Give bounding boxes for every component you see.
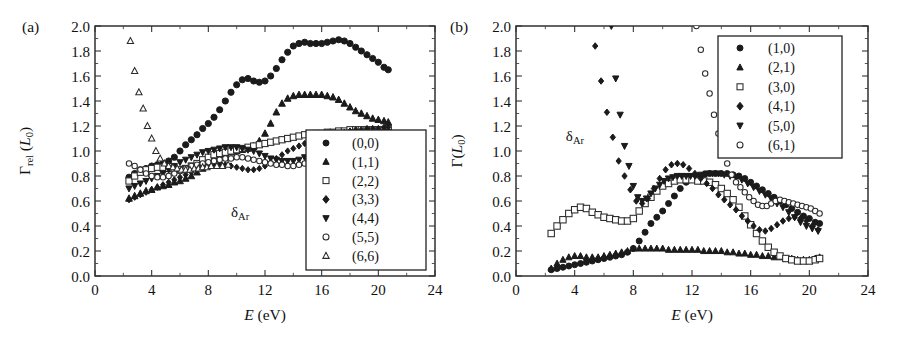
marker-filled-triangle-up bbox=[330, 94, 337, 100]
marker-filled-circle bbox=[572, 262, 578, 268]
x-tick-label: 8 bbox=[205, 282, 213, 298]
marker-open-circle bbox=[291, 163, 296, 168]
marker-filled-circle bbox=[262, 78, 268, 84]
marker-open-circle bbox=[279, 162, 284, 167]
marker-filled-diamond bbox=[716, 192, 721, 199]
marker-filled-triangle-down bbox=[183, 157, 189, 163]
marker-filled-circle bbox=[239, 77, 245, 83]
marker-open-circle bbox=[742, 190, 747, 195]
marker-filled-triangle-down bbox=[188, 155, 194, 161]
marker-filled-triangle-down bbox=[143, 178, 149, 184]
legend-item-label: (2,1) bbox=[768, 60, 795, 76]
marker-filled-diamond bbox=[234, 164, 239, 170]
marker-filled-triangle-up bbox=[695, 246, 701, 252]
marker-filled-diamond bbox=[593, 43, 598, 50]
marker-filled-triangle-down bbox=[815, 228, 821, 234]
marker-filled-triangle-up bbox=[375, 116, 382, 122]
marker-filled-triangle-down bbox=[621, 143, 627, 149]
marker-open-circle bbox=[738, 185, 743, 190]
marker-filled-circle bbox=[560, 264, 566, 270]
marker-open-square bbox=[816, 255, 822, 261]
marker-filled-diamond bbox=[240, 165, 245, 171]
marker-filled-circle bbox=[302, 39, 308, 45]
y-axis-title: Γrel (L0) bbox=[16, 127, 35, 175]
marker-filled-triangle-down bbox=[262, 153, 268, 159]
y-tick-label: 1.6 bbox=[71, 69, 90, 85]
x-tick-label: 16 bbox=[743, 282, 759, 298]
marker-filled-triangle-up bbox=[748, 251, 754, 257]
marker-filled-triangle-down bbox=[626, 163, 632, 169]
marker-filled-triangle-up bbox=[273, 109, 280, 115]
marker-filled-circle bbox=[194, 132, 200, 138]
marker-filled-circle bbox=[217, 107, 223, 113]
marker-filled-diamond bbox=[780, 218, 785, 225]
marker-filled-circle bbox=[183, 142, 189, 148]
y-tick-label: 1.0 bbox=[492, 144, 511, 160]
legend-item-label: (6,1) bbox=[768, 138, 795, 154]
marker-filled-circle bbox=[737, 45, 743, 51]
y-tick-label: 0.0 bbox=[71, 269, 90, 285]
marker-filled-triangle-up bbox=[583, 254, 589, 260]
marker-open-square bbox=[630, 215, 636, 221]
marker-filled-circle bbox=[358, 48, 364, 54]
legend-item-label: (5,5) bbox=[352, 230, 379, 246]
x-tick-label: 24 bbox=[428, 282, 444, 298]
marker-filled-diamond bbox=[598, 78, 603, 85]
legend-item-label: (0,0) bbox=[352, 136, 379, 152]
marker-open-circle bbox=[707, 91, 712, 96]
marker-open-square bbox=[323, 178, 329, 184]
marker-filled-diamond bbox=[285, 148, 290, 154]
legend: (1,0)(2,1)(3,0)(4,1)(5,0)(6,1) bbox=[718, 36, 842, 158]
x-tick-label: 20 bbox=[371, 282, 386, 298]
marker-open-triangle-up bbox=[157, 155, 163, 161]
marker-filled-circle bbox=[211, 114, 217, 120]
marker-open-circle bbox=[268, 161, 273, 166]
marker-open-square bbox=[724, 190, 730, 196]
y-tick-label: 0.8 bbox=[71, 169, 90, 185]
marker-filled-circle bbox=[285, 49, 291, 55]
x-tick-label: 20 bbox=[802, 282, 817, 298]
figure-container: (a)048121620240.00.20.40.60.81.01.21.41.… bbox=[0, 0, 901, 344]
legend-item-label: (3,0) bbox=[768, 80, 795, 96]
marker-open-circle bbox=[729, 172, 734, 177]
y-tick-label: 0.2 bbox=[492, 244, 511, 260]
marker-open-circle bbox=[694, 23, 699, 28]
marker-open-square bbox=[636, 208, 642, 214]
marker-filled-diamond bbox=[763, 228, 768, 235]
marker-filled-circle bbox=[660, 208, 666, 214]
legend-item-label: (3,3) bbox=[352, 192, 379, 208]
marker-open-circle bbox=[733, 180, 738, 185]
marker-filled-triangle-up bbox=[554, 260, 560, 266]
marker-filled-triangle-down bbox=[256, 151, 262, 157]
marker-filled-triangle-up bbox=[724, 249, 730, 255]
marker-filled-circle bbox=[323, 140, 329, 146]
marker-open-circle bbox=[323, 234, 329, 240]
marker-filled-circle bbox=[256, 79, 262, 85]
legend: (0,0)(1,1)(2,2)(3,3)(4,4)(5,5)(6,6) bbox=[306, 130, 426, 270]
y-axis-title: Γ(L0) bbox=[450, 134, 467, 167]
marker-filled-circle bbox=[566, 263, 572, 269]
marker-open-circle bbox=[172, 171, 177, 176]
marker-filled-circle bbox=[817, 221, 823, 227]
marker-filled-diamond bbox=[610, 134, 615, 141]
x-tick-label: 12 bbox=[258, 282, 273, 298]
marker-filled-circle bbox=[228, 89, 234, 95]
marker-filled-diamond bbox=[177, 174, 182, 180]
y-tick-label: 1.8 bbox=[492, 44, 511, 60]
marker-filled-circle bbox=[648, 221, 654, 227]
y-tick-label: 1.2 bbox=[71, 119, 90, 135]
marker-filled-triangle-up bbox=[759, 253, 765, 259]
marker-filled-diamond bbox=[681, 162, 686, 169]
y-tick-label: 2.0 bbox=[492, 19, 511, 35]
marker-filled-circle bbox=[268, 73, 274, 79]
marker-filled-triangle-up bbox=[712, 248, 718, 254]
marker-filled-triangle-down bbox=[126, 186, 132, 192]
marker-filled-circle bbox=[578, 261, 584, 267]
marker-filled-circle bbox=[677, 186, 683, 192]
marker-filled-triangle-down bbox=[177, 160, 183, 166]
marker-filled-diamond bbox=[291, 145, 296, 151]
marker-filled-circle bbox=[296, 40, 302, 46]
marker-filled-circle bbox=[324, 39, 330, 45]
y-tick-label: 0.4 bbox=[492, 219, 511, 235]
marker-open-circle bbox=[296, 162, 301, 167]
